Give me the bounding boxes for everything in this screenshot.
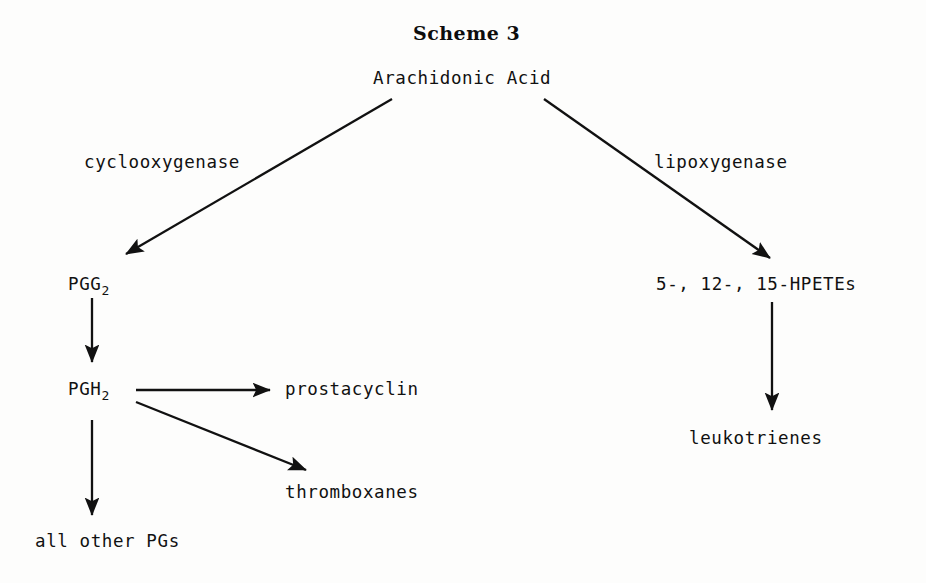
edge-label-cyclooxygenase: cyclooxygenase — [84, 154, 240, 172]
node-thromboxanes: thromboxanes — [285, 484, 419, 502]
node-pgh2-label: PGH — [68, 379, 101, 399]
node-pgh2-subscript: 2 — [101, 388, 109, 403]
node-hpetes-label: 5-, 12-, 15-HPETEs — [656, 274, 856, 294]
node-prostacyclin-label: prostacyclin — [285, 379, 419, 399]
node-pgh2: PGH2 — [68, 381, 109, 399]
edge-label-cyclooxygenase-text: cyclooxygenase — [84, 152, 240, 172]
edge-label-lipoxygenase-text: lipoxygenase — [654, 152, 788, 172]
node-thromboxanes-label: thromboxanes — [285, 482, 419, 502]
edge-pgh2-to-thromboxanes — [136, 402, 306, 470]
node-pgg2-label: PGG — [68, 274, 101, 294]
node-leukotrienes-label: leukotrienes — [689, 428, 823, 448]
node-arachidonic-acid-label: Arachidonic Acid — [373, 68, 551, 88]
node-leukotrienes: leukotrienes — [689, 430, 823, 448]
node-prostacyclin: prostacyclin — [285, 381, 419, 399]
scheme-diagram-page: Scheme 3 Arachidonic Acid PGG2 PGH2 pros… — [0, 0, 926, 583]
node-arachidonic-acid: Arachidonic Acid — [373, 70, 551, 88]
node-hpetes: 5-, 12-, 15-HPETEs — [656, 276, 856, 294]
edge-arachidonic-to-hpetes — [544, 99, 770, 258]
node-pgg2: PGG2 — [68, 276, 109, 294]
node-all-other-pgs: all other PGs — [35, 533, 180, 551]
edge-label-lipoxygenase: lipoxygenase — [654, 154, 788, 172]
node-all-other-pgs-label: all other PGs — [35, 531, 180, 551]
edge-arachidonic-to-pgg2 — [126, 99, 392, 254]
node-pgg2-subscript: 2 — [101, 283, 109, 298]
